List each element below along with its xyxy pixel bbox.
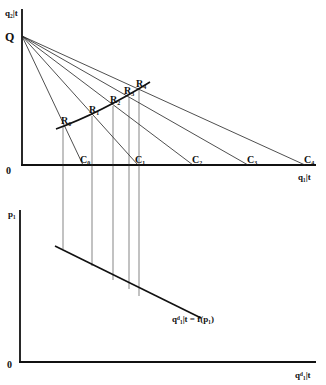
q-intercept-label: Q [5,30,14,44]
ray-c1 [22,36,138,165]
bottom-y-axis-label: p₁ [8,209,16,219]
c0-label: C₀ [80,154,90,165]
top-y-axis-label: q₂|t [5,8,18,18]
budget-rays [22,36,305,165]
r1-label: R₁ [89,104,99,115]
ray-c4 [22,36,305,165]
c2-label: C₂ [192,154,202,165]
bottom-panel: p₁ 0 qᵈ₁|t qᵈ₁|t = f(p₁) [7,209,316,380]
c1-label: C₁ [135,154,145,165]
top-x-axis-label: q₁|t [298,172,311,182]
demand-curve-label: qᵈ₁|t = f(p₁) [172,314,214,324]
ray-c2 [22,36,193,165]
ray-c3 [22,36,248,165]
bottom-x-axis-label: qᵈ₁|t [295,370,311,380]
r0-label: R₀ [61,115,71,126]
r3-label: R₃ [124,85,134,96]
ray-c0 [22,36,83,165]
top-origin-label: 0 [6,165,11,176]
c4-label: C₄ [304,154,314,165]
r2-label: R₂ [110,94,120,105]
c3-label: C₃ [247,154,257,165]
diagram-canvas: q₂|t Q 0 q₁|t C₀ C₁ C₂ C₃ C₄ R₀ R₁ R₂ R₃… [0,0,326,385]
demand-curve [55,246,201,318]
bottom-origin-label: 0 [7,359,12,370]
r4-label: R₄ [136,78,146,89]
top-panel: q₂|t Q 0 q₁|t C₀ C₁ C₂ C₃ C₄ R₀ R₁ R₂ R₃… [5,8,316,182]
